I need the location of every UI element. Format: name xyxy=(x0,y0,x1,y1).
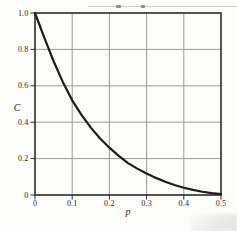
x-tick-label: 0.2 xyxy=(104,199,115,208)
y-tick-label: 0.4 xyxy=(18,118,29,127)
x-axis-label: p xyxy=(125,206,131,217)
x-tick-label: 0.1 xyxy=(67,199,78,208)
y-tick-label: 0.6 xyxy=(18,81,29,90)
line-chart: 00.10.20.30.40.500.20.40.60.81.0pC xyxy=(0,0,237,231)
x-tick-label: 0.3 xyxy=(141,199,152,208)
scanned-chart-figure: 00.10.20.30.40.500.20.40.60.81.0pC xyxy=(0,0,237,231)
x-tick-label: 0.4 xyxy=(178,199,189,208)
y-tick-label: 0.2 xyxy=(18,154,29,163)
x-tick-label: 0 xyxy=(33,199,37,208)
y-tick-label: 0 xyxy=(24,191,28,200)
y-tick-label: 1.0 xyxy=(18,9,29,18)
scan-artifact-smudge xyxy=(191,214,237,231)
x-tick-label: 0.5 xyxy=(216,199,227,208)
plot-frame xyxy=(35,13,221,195)
y-tick-label: 0.8 xyxy=(18,45,29,54)
data-curve xyxy=(35,13,221,194)
y-axis-label: C xyxy=(14,102,21,113)
